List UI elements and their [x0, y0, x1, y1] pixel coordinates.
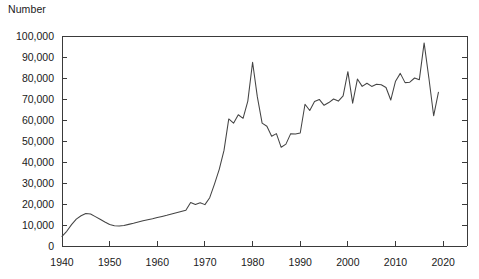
x-tick-label: 1990: [289, 256, 313, 268]
y-tick-label: 70,000: [22, 93, 54, 105]
y-tick-label: 90,000: [22, 51, 54, 63]
y-tick-label: 20,000: [22, 198, 54, 210]
x-tick-label: 1970: [193, 256, 217, 268]
x-tick-label: 1980: [241, 256, 265, 268]
y-tick-label: 100,000: [16, 30, 54, 42]
x-tick-label: 1940: [50, 256, 74, 268]
y-tick-label: 50,000: [22, 135, 54, 147]
y-tick-label: 0: [48, 240, 54, 252]
axis-tick-marks: [62, 57, 467, 246]
y-tick-label: 30,000: [22, 177, 54, 189]
chart-figure: Number 010,00020,00030,00040,00050,00060…: [0, 0, 479, 279]
y-tick-label: 80,000: [22, 72, 54, 84]
y-axis-tick-labels: 010,00020,00030,00040,00050,00060,00070,…: [16, 30, 54, 252]
x-tick-label: 1950: [98, 256, 122, 268]
y-tick-label: 10,000: [22, 219, 54, 231]
x-tick-label: 2010: [384, 256, 408, 268]
data-series-line: [62, 43, 438, 236]
x-axis-tick-labels: 194019501960197019801990200020102020: [50, 256, 455, 268]
y-tick-label: 60,000: [22, 114, 54, 126]
axis-frame: [62, 36, 467, 246]
x-tick-label: 2020: [431, 256, 455, 268]
x-tick-label: 2000: [336, 256, 360, 268]
x-tick-label: 1960: [146, 256, 170, 268]
y-tick-label: 40,000: [22, 156, 54, 168]
line-chart-plot: 010,00020,00030,00040,00050,00060,00070,…: [0, 0, 479, 279]
